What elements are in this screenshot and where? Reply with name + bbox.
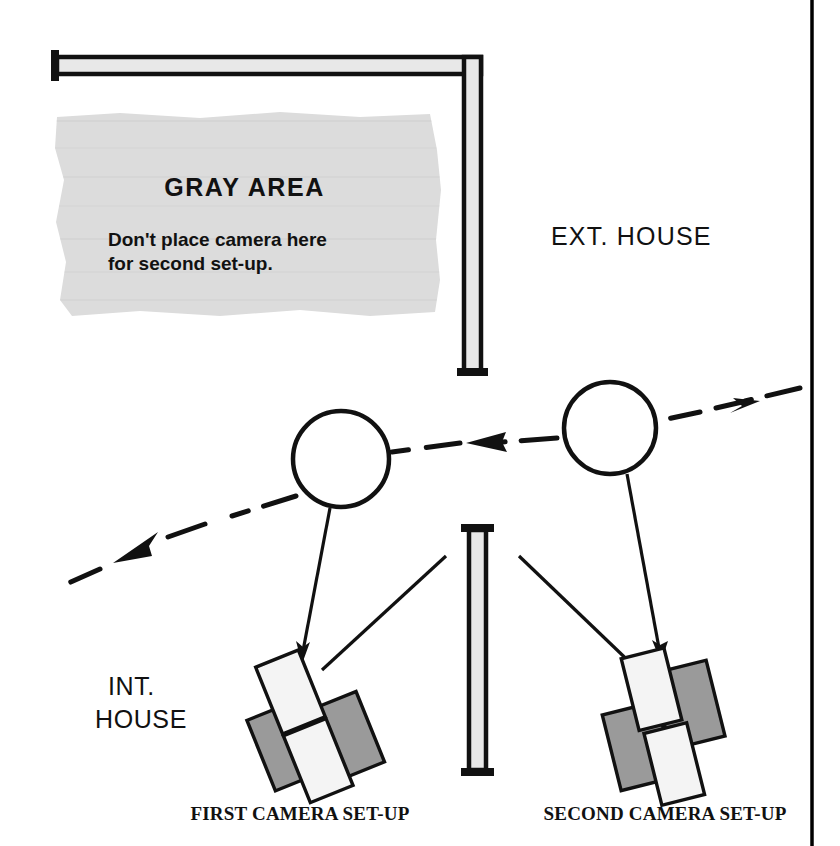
caption-first-camera-set-up: FIRST CAMERA SET-UP (150, 803, 450, 825)
camera-second (590, 639, 737, 814)
gray-area-note-line-2: for second set-up. (108, 252, 370, 276)
gray-area-patch (50, 112, 450, 316)
wall-lower (461, 524, 494, 776)
label-int-house-line-1: INT. (108, 672, 155, 702)
sightline-wall-to-second-camera (519, 556, 640, 672)
label-int-house-line-2: HOUSE (95, 705, 187, 735)
sightline-right-circle-to-first-camera (322, 556, 446, 670)
dashed-eyeline-right (662, 388, 800, 420)
dashed-eyeline-left (62, 496, 296, 586)
diagram-canvas: GRAY AREA Don't place camera here for se… (0, 0, 840, 846)
label-ext-house: EXT. HOUSE (551, 222, 712, 252)
actor-circle-right (564, 382, 656, 474)
gray-area-heading: GRAY AREA (52, 173, 437, 203)
actor-circle-left (293, 411, 389, 507)
dashed-eyeline-center (392, 432, 557, 452)
camera-first (230, 636, 389, 813)
gray-area-note-line-1: Don't place camera here (108, 228, 370, 252)
wall-horizontal (51, 50, 481, 81)
sightline-left-circle-to-first-camera (296, 508, 330, 664)
wall-vertical (457, 57, 488, 376)
sightline-right-circle-to-second-camera (627, 474, 668, 662)
caption-second-camera-set-up: SECOND CAMERA SET-UP (520, 803, 810, 825)
